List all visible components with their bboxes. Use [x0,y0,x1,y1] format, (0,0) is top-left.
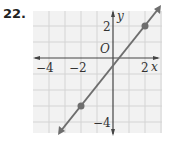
origin-label: O [100,42,110,56]
x-tick-label-neg4: −4 [36,61,54,75]
coordinate-graph: −4 −2 2 x 2 −4 y O [0,0,172,147]
y-axis-label: y [116,9,124,23]
point-2-2 [142,23,149,30]
y-tick-label-2: 2 [103,20,111,34]
x-tick-label-neg2: −2 [69,61,87,75]
y-tick-label-neg4: −4 [93,116,111,130]
x-axis-label: x [151,60,158,74]
point-neg2-neg3 [78,103,85,110]
x-tick-label-2: 2 [141,61,149,75]
